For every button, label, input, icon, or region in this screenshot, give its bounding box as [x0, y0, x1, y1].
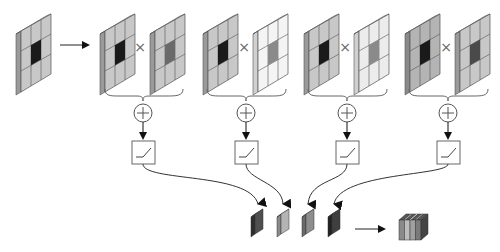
- branch-1-pair: ×: [100, 14, 185, 95]
- braces: [105, 89, 488, 101]
- activation-relu-icon: [437, 141, 460, 164]
- output-slice-1: [251, 209, 263, 237]
- multiply-icon: ×: [339, 39, 351, 55]
- sum-icon: [237, 104, 255, 122]
- sum-icon: [439, 104, 457, 122]
- sum-to-activation-arrows: [143, 122, 448, 138]
- brace-4: [409, 89, 488, 101]
- diagram-canvas: × ×: [0, 0, 500, 252]
- multiply-icon: ×: [134, 39, 146, 55]
- sum-nodes: [134, 104, 457, 122]
- branch-2-feature-grid: [203, 14, 238, 95]
- output-slices: [251, 209, 340, 237]
- diagram-svg: × ×: [0, 0, 500, 252]
- branch-4-pair: ×: [405, 14, 490, 95]
- brace-2: [207, 89, 286, 101]
- sum-icon: [338, 104, 356, 122]
- branch-2-kernel: [253, 14, 288, 95]
- multiply-icon: ×: [440, 39, 452, 55]
- input-grid: [16, 14, 51, 95]
- concatenated-output-block: [399, 214, 428, 240]
- branch-3-feature-grid: [304, 14, 339, 95]
- brace-3: [308, 89, 387, 101]
- branch-3-pair: ×: [304, 14, 389, 95]
- multiply-icon: ×: [238, 39, 250, 55]
- branch-3-kernel: [354, 14, 389, 95]
- activation-nodes: [132, 141, 460, 164]
- activation-relu-icon: [336, 141, 359, 164]
- branch-1-kernel: [150, 14, 185, 95]
- sum-icon: [134, 104, 152, 122]
- output-slice-2: [277, 209, 289, 237]
- branch-4-feature-grid: [405, 14, 440, 95]
- branch-4-kernel: [455, 14, 490, 95]
- activation-to-output-arrows: [143, 164, 448, 204]
- output-slice-4: [328, 209, 340, 237]
- output-slice-3: [302, 209, 314, 237]
- activation-relu-icon: [132, 141, 155, 164]
- activation-relu-icon: [235, 141, 258, 164]
- branch-1-feature-grid: [100, 14, 135, 95]
- brace-1: [105, 89, 183, 101]
- branch-2-pair: ×: [203, 14, 288, 95]
